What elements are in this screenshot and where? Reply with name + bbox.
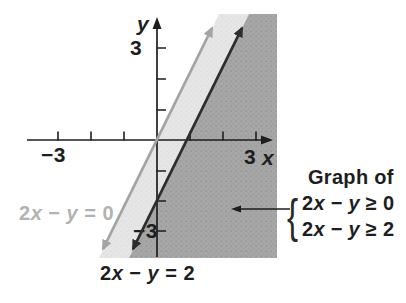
x-min-tick-label: −3 bbox=[41, 144, 66, 165]
y-max-tick-label: 3 bbox=[130, 37, 142, 58]
legend-system: { 2x − y ≥ 0 2x − y ≥ 2 bbox=[287, 190, 394, 242]
legend-title: Graph of bbox=[308, 166, 394, 189]
system-inequalities: 2x − y ≥ 0 2x − y ≥ 2 bbox=[302, 190, 394, 242]
inequality-1: 2x − y ≥ 0 bbox=[302, 190, 394, 216]
black-line-equation-label: 2x − y = 2 bbox=[100, 263, 195, 283]
y-min-tick-label: −3 bbox=[133, 220, 158, 241]
legend-block: Graph of { 2x − y ≥ 0 2x − y ≥ 2 bbox=[287, 166, 394, 242]
x-axis-label: x bbox=[262, 147, 274, 168]
system-brace: { bbox=[287, 190, 298, 242]
x-max-tick-label: 3 bbox=[244, 146, 256, 167]
gray-line-equation-label: 2x − y = 0 bbox=[19, 203, 114, 223]
inequality-graph-figure: y 3 −3 3 x −3 2x − y = 0 2x − y = 2 Grap… bbox=[0, 0, 406, 303]
y-axis-label: y bbox=[137, 13, 149, 34]
inequality-2: 2x − y ≥ 2 bbox=[302, 216, 394, 242]
